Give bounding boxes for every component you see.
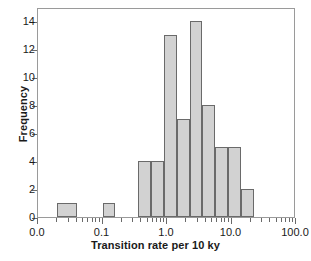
x-axis-minor-tick xyxy=(152,218,153,222)
x-axis-minor-tick xyxy=(216,218,217,222)
x-axis-minor-tick xyxy=(95,218,96,222)
x-axis-tick xyxy=(231,218,232,224)
x-axis-tick xyxy=(37,218,38,224)
x-axis-minor-tick xyxy=(76,218,77,222)
x-axis-tick-label: 0.0 xyxy=(7,226,67,238)
x-axis-minor-tick xyxy=(224,218,225,222)
x-axis-minor-tick xyxy=(285,218,286,222)
bar-series xyxy=(38,9,294,217)
histogram-bar xyxy=(241,189,254,217)
x-axis-minor-tick xyxy=(269,218,270,222)
x-axis-tick-label: 100.0 xyxy=(265,226,311,238)
y-axis-tick-label: 6 xyxy=(0,127,35,139)
y-axis-tick-label: 4 xyxy=(0,155,35,167)
x-axis-minor-tick xyxy=(92,218,93,222)
x-axis-minor-tick xyxy=(140,218,141,222)
histogram-bar xyxy=(164,35,177,217)
x-axis-minor-tick xyxy=(121,218,122,222)
histogram-bar xyxy=(202,105,215,217)
x-axis-minor-tick xyxy=(56,218,57,222)
x-axis-minor-tick xyxy=(250,218,251,222)
plot-area xyxy=(37,8,295,218)
histogram-bar xyxy=(190,21,203,217)
y-axis-tick-label: 8 xyxy=(0,99,35,111)
x-axis-tick-label: 10.0 xyxy=(201,226,261,238)
x-axis-minor-tick xyxy=(156,218,157,222)
x-axis-tick-label: 0.1 xyxy=(72,226,132,238)
y-axis-tick-label: 2 xyxy=(0,183,35,195)
x-axis-minor-tick xyxy=(228,218,229,222)
y-axis-tick-label: 14 xyxy=(0,15,35,27)
y-axis-tick-label: 0 xyxy=(0,211,35,223)
x-axis-minor-tick xyxy=(276,218,277,222)
x-axis-tick xyxy=(166,218,167,224)
x-axis-minor-tick xyxy=(147,218,148,222)
x-axis-title: Transition rate per 10 ky xyxy=(0,239,311,251)
x-axis-minor-tick xyxy=(82,218,83,222)
x-axis-minor-tick xyxy=(160,218,161,222)
x-axis-minor-tick xyxy=(132,218,133,222)
histogram-figure: Frequency 02468101214 0.00.11.010.0100.0… xyxy=(0,0,311,261)
histogram-bar xyxy=(138,161,151,217)
x-axis-minor-tick xyxy=(205,218,206,222)
histogram-bar xyxy=(228,147,241,217)
x-axis-minor-tick xyxy=(261,218,262,222)
y-axis-tick-label: 12 xyxy=(0,43,35,55)
histogram-bar xyxy=(215,147,228,217)
histogram-bar xyxy=(103,203,116,217)
x-axis-minor-tick xyxy=(281,218,282,222)
x-axis-minor-tick xyxy=(163,218,164,222)
x-axis-minor-tick xyxy=(292,218,293,222)
x-axis-minor-tick xyxy=(185,218,186,222)
x-axis-minor-tick xyxy=(87,218,88,222)
x-axis-tick-label: 1.0 xyxy=(136,226,196,238)
x-axis-tick xyxy=(295,218,296,224)
x-axis-minor-tick xyxy=(289,218,290,222)
x-axis-tick xyxy=(102,218,103,224)
x-axis-minor-tick xyxy=(99,218,100,222)
x-axis-minor-tick xyxy=(68,218,69,222)
histogram-bar xyxy=(151,161,164,217)
x-axis-minor-tick xyxy=(211,218,212,222)
histogram-bar xyxy=(57,203,76,217)
x-axis-minor-tick xyxy=(197,218,198,222)
histogram-bar xyxy=(177,119,190,217)
x-axis-minor-tick xyxy=(221,218,222,222)
y-axis-tick-label: 10 xyxy=(0,71,35,83)
